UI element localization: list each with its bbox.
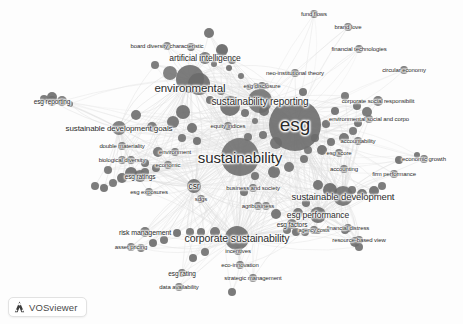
network-node-financial-technologies[interactable] [355, 45, 363, 53]
network-node[interactable] [300, 155, 308, 163]
network-node[interactable] [252, 118, 258, 124]
network-node[interactable] [40, 95, 48, 103]
network-node[interactable] [141, 159, 149, 167]
network-node[interactable] [262, 202, 270, 210]
network-node-double-materiality[interactable] [118, 142, 126, 150]
network-node[interactable] [302, 199, 310, 207]
network-node-esg-rating[interactable] [178, 269, 186, 277]
network-node-environment[interactable] [171, 148, 179, 156]
network-node[interactable] [187, 43, 195, 51]
network-node[interactable] [357, 189, 367, 199]
network-node[interactable] [331, 107, 339, 115]
network-node[interactable] [327, 138, 335, 146]
network-node[interactable] [210, 227, 220, 237]
network-node-asset-pricing[interactable] [127, 243, 135, 251]
network-node[interactable] [67, 101, 73, 107]
network-node[interactable] [355, 243, 363, 251]
network-node[interactable] [141, 168, 149, 176]
network-node[interactable] [153, 147, 163, 157]
network-node-circular-economy[interactable] [400, 66, 408, 74]
network-node[interactable] [339, 133, 349, 143]
network-node-accounting[interactable] [340, 165, 348, 173]
network-node-csr[interactable] [187, 179, 201, 193]
network-node[interactable] [244, 133, 252, 141]
network-node[interactable] [152, 164, 160, 172]
network-node-corporate-social-responsibilit[interactable] [373, 96, 383, 106]
network-node[interactable] [91, 182, 99, 190]
network-node[interactable] [228, 288, 236, 296]
network-node[interactable] [292, 228, 300, 236]
vosviewer-logo-badge[interactable]: VOSviewer [8, 297, 87, 317]
network-node[interactable] [341, 226, 349, 234]
network-node[interactable] [253, 83, 259, 89]
network-node[interactable] [246, 84, 252, 90]
network-node[interactable] [204, 28, 214, 38]
network-node[interactable] [127, 156, 135, 164]
network-node[interactable] [251, 172, 259, 180]
network-node[interactable] [299, 88, 307, 96]
network-node[interactable] [349, 127, 357, 135]
network-node-data-availability[interactable] [175, 283, 183, 291]
network-node[interactable] [341, 92, 349, 100]
network-node[interactable] [149, 239, 157, 247]
network-node-sdgs[interactable] [197, 195, 205, 203]
network-node-business-and-society[interactable] [249, 184, 257, 192]
network-node[interactable] [323, 183, 337, 197]
network-node[interactable] [186, 228, 194, 236]
network-node[interactable] [189, 254, 197, 262]
network-node-sustainability[interactable] [221, 138, 259, 176]
network-node[interactable] [414, 152, 420, 158]
network-node[interactable] [188, 73, 210, 95]
network-node-esg-exposures[interactable] [145, 188, 153, 196]
network-node[interactable] [47, 92, 57, 102]
network-node[interactable] [187, 123, 197, 133]
network-node[interactable] [228, 56, 236, 64]
network-node[interactable] [167, 116, 179, 128]
network-node[interactable] [369, 186, 379, 196]
network-node[interactable] [109, 179, 117, 187]
network-node[interactable] [304, 146, 312, 154]
network-node[interactable] [220, 96, 240, 116]
network-node-economic[interactable] [164, 161, 172, 169]
network-node[interactable] [284, 162, 294, 172]
network-node-equity-indices[interactable] [224, 122, 232, 130]
network-node[interactable] [137, 244, 145, 252]
network-node[interactable] [353, 102, 361, 110]
network-node[interactable] [322, 120, 330, 128]
network-node[interactable] [147, 122, 157, 132]
network-node[interactable] [100, 184, 108, 192]
network-node-sustainable-development-goals[interactable] [112, 121, 126, 135]
network-node[interactable] [271, 209, 281, 219]
network-node-esg-score[interactable] [335, 149, 343, 157]
network-node-neo-institutional-theory[interactable] [291, 69, 299, 77]
network-node[interactable] [104, 166, 112, 174]
network-node[interactable] [348, 186, 356, 194]
network-node[interactable] [395, 156, 403, 164]
network-node-fund-flows[interactable] [310, 10, 318, 18]
network-node[interactable] [259, 106, 269, 116]
network-node[interactable] [131, 110, 141, 120]
network-node[interactable] [125, 167, 137, 179]
network-node[interactable] [240, 188, 248, 196]
network-node[interactable] [283, 226, 291, 234]
network-node-economic-growth[interactable] [420, 155, 428, 163]
network-node[interactable] [226, 65, 232, 71]
network-node[interactable] [362, 107, 372, 117]
network-node-biological-diversity[interactable] [118, 156, 126, 164]
network-node[interactable] [178, 134, 186, 142]
network-node-agribusiness[interactable] [254, 202, 262, 210]
network-node-artificial-intelligence[interactable] [199, 52, 211, 64]
vosviewer-network-map[interactable]: esgsustainabilityenvironmentalsustainabi… [0, 0, 463, 324]
network-node-esg-performance[interactable] [310, 207, 326, 223]
network-node[interactable] [311, 134, 319, 142]
network-node[interactable] [176, 105, 190, 119]
network-node[interactable] [293, 208, 303, 218]
network-node-incentives[interactable] [234, 247, 242, 255]
network-node-accountability[interactable] [354, 137, 362, 145]
network-node[interactable] [263, 83, 269, 89]
network-node[interactable] [270, 137, 282, 149]
network-node[interactable] [193, 137, 201, 145]
network-node[interactable] [238, 73, 244, 79]
network-node-board-diversity-characteristic[interactable] [163, 42, 171, 50]
network-node[interactable] [151, 61, 159, 69]
